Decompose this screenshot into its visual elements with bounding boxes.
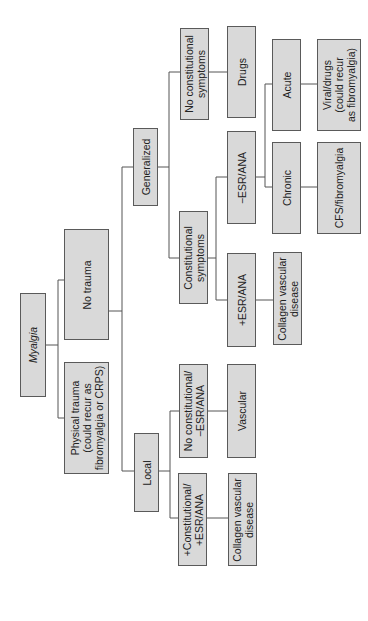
node-physical-trauma: Physical trauma (could recur as fibromya… [64, 362, 109, 474]
node-label: Generalized [140, 139, 152, 196]
node-label: CFS/fibromyalgia [333, 148, 345, 229]
node-label: Constitutional symptoms [182, 226, 206, 290]
myalgia-decision-tree: MyalgiaNo traumaPhysical trauma (could r… [0, 0, 368, 621]
node-chronic: Chronic [272, 142, 301, 234]
node-pos-esr-ana: +ESR/ANA [227, 253, 256, 347]
node-drugs: Drugs [227, 26, 256, 118]
node-cvd-local: Collagen vascular disease [228, 473, 257, 566]
node-label: Local [141, 460, 153, 485]
node-label: Physical trauma (could recur as fibromya… [69, 366, 105, 470]
node-label: +ESR/ANA [236, 274, 248, 326]
node-no-const-neg: No constitutional/ −ESR/ANA [179, 364, 208, 458]
node-label: Acute [281, 72, 293, 99]
node-cfs-fibro: CFS/fibromyalgia [317, 142, 361, 234]
node-label: Collagen vascular disease [276, 257, 300, 340]
node-viral-drugs: Viral/drugs (could recur as fibromyalgia… [317, 39, 361, 131]
node-label: +Constitutional/ +ESR/ANA [181, 483, 205, 556]
node-generalized: Generalized [133, 128, 158, 206]
node-vascular: Vascular [227, 364, 256, 458]
node-acute: Acute [272, 39, 301, 131]
node-no-trauma: No trauma [64, 229, 109, 340]
node-label: No trauma [81, 260, 93, 309]
node-neg-esr-ana: −ESR/ANA [227, 131, 256, 224]
node-cvd-gen: Collagen vascular disease [273, 252, 302, 345]
node-local: Local [134, 433, 159, 512]
node-myalgia: Myalgia [20, 293, 46, 397]
node-label: Drugs [236, 58, 248, 86]
node-label: −ESR/ANA [236, 151, 248, 203]
node-label: Collagen vascular disease [231, 478, 255, 561]
node-label: Myalgia [27, 327, 39, 363]
node-no-const-symptoms: No constitutional symptoms [180, 28, 209, 120]
node-label: Chronic [281, 170, 293, 206]
node-label: Vascular [236, 391, 248, 431]
node-label: No constitutional symptoms [183, 35, 207, 113]
node-const-pos: +Constitutional/ +ESR/ANA [178, 473, 207, 566]
node-label: No constitutional/ −ESR/ANA [182, 371, 206, 452]
node-label: Viral/drugs (could recur as fibromyalgia… [321, 48, 357, 122]
node-const-symptoms: Constitutional symptoms [179, 211, 208, 304]
